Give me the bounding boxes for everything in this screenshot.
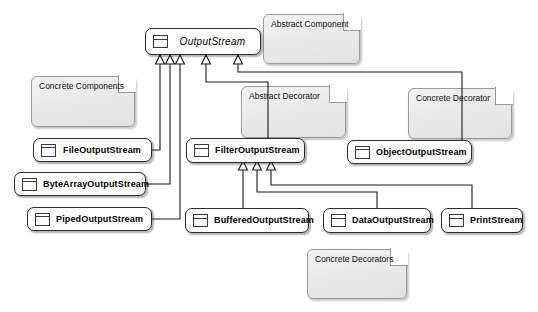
edge-fileoutputstream-to-outputstream — [152, 62, 160, 150]
generalization-arrowhead-icon — [156, 55, 165, 64]
class-outputstream[interactable]: OutputStream — [145, 28, 261, 55]
class-label: ObjectOutputStream — [376, 148, 476, 157]
note-label: Abstract Decorator — [249, 92, 320, 101]
note-label: Abstract Component — [271, 20, 348, 29]
uml-class-icon — [153, 35, 168, 48]
note-label: Concrete Decorators — [315, 255, 393, 264]
class-label: BufferedOutputStream — [214, 216, 323, 225]
class-filteroutputstream[interactable]: FilterOutputStream — [186, 138, 305, 163]
class-pipedoutputstream[interactable]: PipedOutputStream — [27, 207, 152, 231]
note-fold-corner-icon — [329, 85, 347, 103]
class-label: PrintStream — [470, 216, 532, 225]
class-label: OutputStream — [174, 37, 260, 47]
uml-class-icon — [355, 146, 370, 159]
generalization-arrowhead-icon — [166, 55, 175, 64]
note-abstract-component: Abstract Component — [263, 14, 360, 64]
class-dataoutputstream[interactable]: DataOutputStream — [323, 208, 431, 233]
uml-class-icon — [35, 213, 50, 226]
class-label: PipedOutputStream — [56, 215, 152, 224]
note-concrete-decorators: Concrete Decorators — [307, 249, 407, 299]
edge-printstream-to-filteroutputstream — [271, 168, 472, 208]
class-fileoutputstream[interactable]: FileOutputStream — [33, 138, 152, 162]
generalization-arrowhead-icon — [202, 55, 211, 64]
class-objectoutputstream[interactable]: ObjectOutputStream — [347, 140, 472, 164]
class-label: DataOutputStream — [352, 216, 443, 225]
uml-class-icon — [331, 214, 346, 227]
note-fold-corner-icon — [495, 87, 513, 105]
uml-class-icon — [194, 144, 209, 157]
uml-class-icon — [41, 144, 56, 157]
class-label: ByteArrayOutputStream — [43, 180, 158, 189]
class-bytearrayoutputstream[interactable]: ByteArrayOutputStream — [14, 172, 146, 196]
edge-bytearrayoutputstream-to-outputstream — [146, 62, 170, 184]
class-bufferedoutputstream[interactable]: BufferedOutputStream — [185, 208, 309, 233]
generalization-arrowhead-icon — [176, 55, 185, 64]
class-label: FileOutputStream — [62, 146, 151, 155]
edge-pipedoutputstream-to-outputstream — [152, 62, 180, 219]
uml-class-icon — [449, 214, 464, 227]
class-printstream[interactable]: PrintStream — [441, 208, 523, 233]
note-concrete-decorator: Concrete Decorator — [408, 88, 512, 139]
note-abstract-decorator: Abstract Decorator — [241, 86, 346, 138]
uml-class-diagram: Abstract Component Concrete Components A… — [0, 0, 538, 312]
note-label: Concrete Components — [39, 82, 124, 91]
note-label: Concrete Decorator — [416, 94, 490, 103]
uml-class-icon — [22, 178, 37, 191]
uml-class-icon — [193, 214, 208, 227]
note-concrete-components: Concrete Components — [31, 76, 135, 127]
generalization-arrowhead-icon — [234, 55, 243, 64]
class-label: FilterOutputStream — [215, 146, 309, 155]
edge-dataoutputstream-to-filteroutputstream — [257, 168, 377, 208]
